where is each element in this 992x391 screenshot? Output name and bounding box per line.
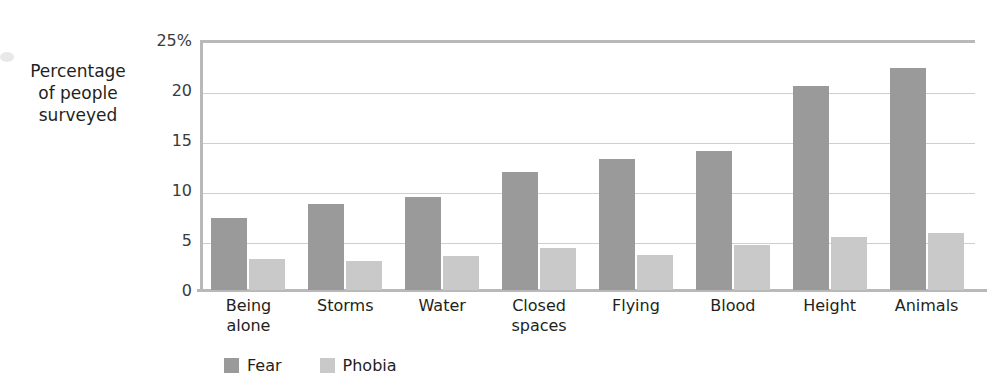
bar-phobia-2 xyxy=(443,256,479,290)
legend-item: Phobia xyxy=(320,356,397,375)
x-axis-label: Height xyxy=(775,296,885,316)
x-axis-label: Blood xyxy=(678,296,788,316)
legend-label: Fear xyxy=(247,356,282,375)
bar-phobia-1 xyxy=(346,261,382,290)
bar-fear-4 xyxy=(599,159,635,290)
bar-chart: Percentage of people surveyed 25%2015105… xyxy=(0,0,992,391)
bar-fear-3 xyxy=(502,172,538,290)
legend-item: Fear xyxy=(224,356,282,375)
y-axis-tick-label: 5 xyxy=(132,231,192,250)
x-axis-category-labels: Being aloneStormsWaterClosed spacesFlyin… xyxy=(200,296,975,344)
bar-fear-6 xyxy=(793,86,829,290)
y-axis-tick-label: 15 xyxy=(132,131,192,150)
y-axis-tick-label: 25% xyxy=(132,31,192,50)
x-axis-label: Storms xyxy=(290,296,400,316)
bar-fear-7 xyxy=(890,68,926,290)
bar-fear-2 xyxy=(405,197,441,290)
x-axis-label: Closed spaces xyxy=(484,296,594,336)
bars-layer xyxy=(200,40,975,290)
y-axis-title: Percentage of people surveyed xyxy=(8,60,148,126)
legend-swatch-icon xyxy=(320,358,335,373)
chart-legend: FearPhobia xyxy=(224,356,425,375)
x-axis-label: Water xyxy=(387,296,497,316)
bar-fear-0 xyxy=(211,218,247,290)
y-axis-tick-label: 20 xyxy=(132,81,192,100)
y-axis-tick-label: 10 xyxy=(132,181,192,200)
bar-phobia-0 xyxy=(249,259,285,290)
x-axis-label: Flying xyxy=(581,296,691,316)
bar-phobia-6 xyxy=(831,237,867,290)
bar-phobia-5 xyxy=(734,245,770,290)
legend-swatch-icon xyxy=(224,358,239,373)
x-axis-label: Animals xyxy=(872,296,982,316)
bar-phobia-7 xyxy=(928,233,964,290)
bar-phobia-4 xyxy=(637,255,673,290)
bar-fear-1 xyxy=(308,204,344,290)
bar-phobia-3 xyxy=(540,248,576,290)
legend-label: Phobia xyxy=(343,356,397,375)
bar-fear-5 xyxy=(696,151,732,290)
y-axis-tick-label: 0 xyxy=(132,281,192,300)
y-axis-tick-labels: 25%20151050 xyxy=(128,40,192,290)
x-axis-label: Being alone xyxy=(193,296,303,336)
